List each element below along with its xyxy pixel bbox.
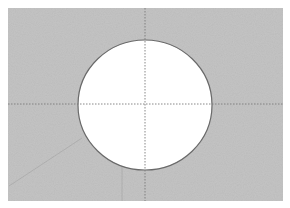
figure-canvas [0, 0, 290, 208]
